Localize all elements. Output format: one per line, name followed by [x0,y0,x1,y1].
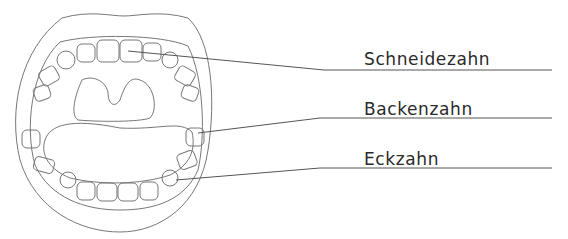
tongue [44,123,193,183]
label-canine: Eckzahn [364,151,439,168]
label-molar: Backenzahn [364,101,473,118]
lips-outline [16,14,212,232]
palate [74,78,154,121]
mouth-inner [30,36,202,210]
leader-line-molar [198,118,552,133]
leader-line-canine [176,168,552,180]
mouth-diagram [0,0,568,239]
label-incisor: Schneidezahn [364,51,490,68]
lower-teeth [22,128,204,201]
upper-teeth [32,40,200,102]
